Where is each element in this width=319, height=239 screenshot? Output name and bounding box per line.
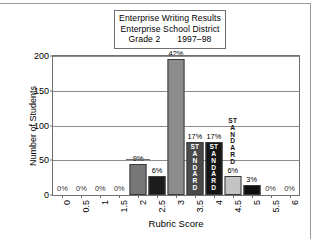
x-tick-label: 1.5	[119, 200, 129, 213]
standard-annotation: STANDARD	[228, 118, 237, 166]
bar-slot[interactable]: 0%6	[280, 56, 299, 195]
chart-title-box: Enterprise Writing Results Enterprise Sc…	[114, 10, 226, 49]
bar-slot[interactable]: 6%2.5	[148, 56, 167, 195]
x-tick-mark	[100, 195, 101, 198]
bar[interactable]	[243, 185, 260, 195]
label-leader-line	[164, 55, 176, 56]
bar-value-label: 0%	[95, 185, 106, 193]
bar[interactable]	[224, 176, 241, 195]
x-tick-label: 3.5	[195, 200, 205, 213]
bar-slot[interactable]: 17%STANDARD4	[204, 56, 223, 195]
x-tick-mark	[119, 195, 120, 198]
bar-slot[interactable]: 3%5	[242, 56, 261, 195]
x-tick-label: 5.5	[271, 200, 281, 213]
x-tick-label: 1	[100, 200, 110, 205]
chart-title-grade: Grade 2	[129, 34, 161, 45]
bar-slot[interactable]: 9%2	[129, 56, 148, 195]
x-tick-label: 4.5	[233, 200, 243, 213]
bar-value-label: 0%	[265, 185, 276, 193]
x-tick-mark	[290, 195, 291, 198]
x-tick-label: 0.5	[81, 200, 91, 213]
page-frame-top-rule	[0, 3, 311, 4]
bar-slot[interactable]: 17%STANDARD3.5	[185, 56, 204, 195]
bar-slot[interactable]: 42%3	[167, 56, 186, 195]
x-tick-mark	[138, 195, 139, 198]
bar-value-label: 0%	[76, 185, 87, 193]
x-tick-mark	[157, 195, 158, 198]
x-tick-mark	[233, 195, 234, 198]
page-frame-right-rule	[310, 3, 311, 239]
bar-slot[interactable]: 0%5.5	[261, 56, 280, 195]
x-tick-label: 5	[252, 200, 262, 205]
bar-value-label: 6%	[152, 167, 163, 175]
chart-title-line-2: Enterprise School District	[118, 24, 222, 35]
bar-value-label: 6%	[227, 167, 238, 175]
label-leader-line	[126, 159, 138, 160]
x-tick-mark	[214, 195, 215, 198]
bar-slot[interactable]: 0%1	[91, 56, 110, 195]
y-tick-label: 150	[34, 86, 49, 96]
x-tick-label: 0	[62, 200, 72, 205]
standard-annotation: STANDARD	[190, 144, 199, 193]
x-tick-mark	[62, 195, 63, 198]
bar[interactable]	[167, 59, 184, 195]
bar-value-label: 0%	[284, 185, 295, 193]
bar[interactable]	[149, 176, 166, 195]
x-tick-mark	[195, 195, 196, 198]
y-tick-label: 50	[39, 155, 49, 165]
x-tick-label: 2	[138, 200, 148, 205]
chart-title-line-3: Grade 2 1997–98	[118, 34, 222, 45]
chart-title-line-1: Enterprise Writing Results	[118, 13, 222, 24]
x-axis-title: Rubric Score	[52, 218, 300, 229]
bar-slot[interactable]: 0%0	[53, 56, 72, 195]
bar-value-label: 17%	[188, 133, 203, 141]
x-tick-label: 2.5	[157, 200, 167, 213]
standard-annotation: STANDARD	[209, 144, 218, 193]
x-tick-mark	[252, 195, 253, 198]
bar-slot[interactable]: 0%0.5	[72, 56, 91, 195]
x-tick-mark	[81, 195, 82, 198]
x-tick-mark	[176, 195, 177, 198]
bar[interactable]	[130, 164, 147, 195]
bar-value-label: 3%	[246, 176, 257, 184]
chart-plot-area: Number of Students 050100150200 0%00%0.5…	[52, 55, 300, 196]
bar-slot[interactable]: 0%1.5	[110, 56, 129, 195]
chart-title-year: 1997–98	[177, 34, 211, 45]
bar-value-label: 0%	[57, 185, 68, 193]
bar-value-label: 17%	[206, 133, 221, 141]
x-tick-label: 3	[176, 200, 186, 205]
y-tick-label: 200	[34, 51, 49, 61]
bar-slot[interactable]: 6%STANDARD4.5	[223, 56, 242, 195]
x-tick-mark	[271, 195, 272, 198]
y-tick-label: 100	[34, 121, 49, 131]
x-tick-label: 4	[214, 200, 224, 205]
y-tick-label: 0	[44, 190, 49, 200]
bar-value-label: 0%	[114, 185, 125, 193]
x-tick-label: 6	[290, 200, 300, 205]
